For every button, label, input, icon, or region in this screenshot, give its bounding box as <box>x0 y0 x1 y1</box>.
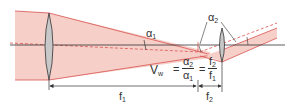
formula-lhs: Vw <box>150 64 163 77</box>
fraction-alpha-denominator: α1 <box>183 69 193 82</box>
fraction-alpha: α2 α1 <box>182 56 194 82</box>
telescope-diagram <box>0 0 294 104</box>
f2-label: f2 <box>206 91 213 103</box>
formula-equals-1: = <box>173 64 179 75</box>
alpha2-label: α2 <box>208 12 218 24</box>
fraction-f: f2 f1 <box>208 56 217 82</box>
formula-equals-2: = <box>199 64 205 75</box>
fraction-alpha-numerator: α2 <box>182 56 194 69</box>
fraction-f-numerator: f2 <box>208 56 217 69</box>
alpha1-label: α1 <box>146 28 156 40</box>
fraction-f-denominator: f1 <box>209 69 216 82</box>
f1-label: f1 <box>119 91 126 103</box>
